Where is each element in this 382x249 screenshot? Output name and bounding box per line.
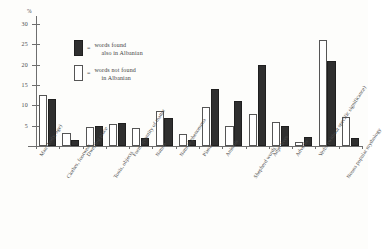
legend-item-not-found: = words not found in Albanian [74,65,186,82]
legend-equals-sign-2: = [87,65,90,77]
x-axis-label: Dwelling place [85,125,109,157]
legend-item-found: = words found also in Albanian [74,40,186,57]
x-axis-label: Adverbs [294,138,309,157]
x-axis-label: Man (body, age) [38,123,63,157]
x-axis-label: Animals [224,138,239,157]
legend-label-not-found: words not found in Albanian [94,65,136,82]
legend-label-not-found-line2: in Albanian [94,75,136,83]
x-axis-label: Verbs (without specific significance) [317,84,367,157]
x-axis-label: Nouns popular mythology [345,127,382,180]
x-axis-label: Plants [201,142,214,157]
legend-equals-sign: = [87,40,90,52]
legend-label-found-line1: words found [94,42,126,48]
legend-swatch-filled-icon [74,40,83,56]
legend-label-not-found-line1: words not found [94,67,136,73]
legend-swatch-open-icon [74,65,83,81]
legend-label-found-line2: also in Albanian [94,50,142,58]
legend-label-found: words found also in Albanian [94,40,142,57]
x-axis-label: Nature [154,141,167,157]
x-axis-label: Adjectives [271,134,289,157]
chart-legend: = words found also in Albanian = words n… [74,40,186,90]
